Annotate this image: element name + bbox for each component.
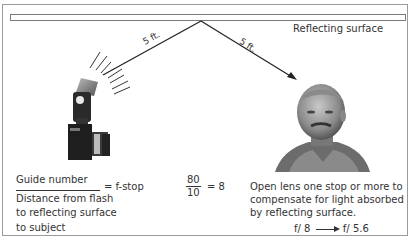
arrow-right-icon <box>316 229 338 230</box>
example-denominator: 10 <box>186 187 201 199</box>
camera-with-flash-icon <box>60 70 130 170</box>
fstop-change: f/ 8 f/ 5.6 <box>294 223 369 234</box>
portrait-photo-icon <box>275 82 370 172</box>
fstop-to: f/ 5.6 <box>343 223 369 234</box>
formula-numerator: Guide number <box>16 173 100 191</box>
fstop-from: f/ 8 <box>294 223 310 234</box>
compensation-note: Open lens one stop or more to compensate… <box>250 180 410 219</box>
example-calculation: 80 10 = 8 <box>186 174 225 199</box>
arrowhead-icon <box>287 72 297 80</box>
example-fraction: 80 10 <box>186 174 201 199</box>
incident-ray <box>103 21 201 75</box>
guide-number-formula: Guide number = f-stop Distance from flas… <box>16 173 126 235</box>
example-result: = 8 <box>207 181 225 192</box>
reflecting-surface-label: Reflecting surface <box>293 23 383 34</box>
formula-equals: = f-stop <box>104 180 144 195</box>
example-numerator: 80 <box>186 174 201 187</box>
formula-denominator: Distance from flash to reflecting surfac… <box>16 192 126 236</box>
